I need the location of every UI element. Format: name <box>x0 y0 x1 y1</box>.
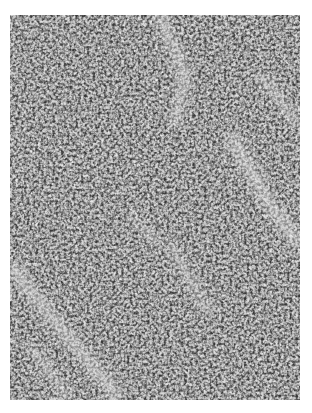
histology-texture <box>10 15 300 400</box>
micrograph-image <box>10 15 300 400</box>
